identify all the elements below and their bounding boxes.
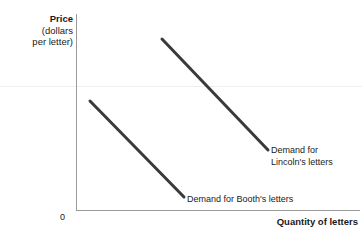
y-axis-title-line2: (dollars	[42, 25, 73, 36]
y-axis-title-line1: Price	[50, 13, 73, 24]
demand-curve-booth-label: Demand for Booth's letters	[187, 194, 293, 206]
demand-curve-figure: Price(dollarsper letter) Quantity of let…	[0, 0, 362, 241]
demand-curve-lincoln-label: Demand forLincoln's letters	[271, 144, 333, 168]
demand-curve-lincoln-label-line1: Demand for	[271, 145, 318, 155]
demand-curve-lincoln-label-line2: Lincoln's letters	[271, 157, 333, 167]
origin-label: 0	[60, 212, 65, 224]
y-axis-title-line3: per letter)	[32, 36, 73, 47]
x-axis-title: Quantity of letters	[277, 216, 358, 228]
demand-curve-lincoln	[162, 39, 268, 150]
demand-curve-booth	[90, 101, 184, 197]
y-axis-title: Price(dollarsper letter)	[0, 13, 73, 48]
